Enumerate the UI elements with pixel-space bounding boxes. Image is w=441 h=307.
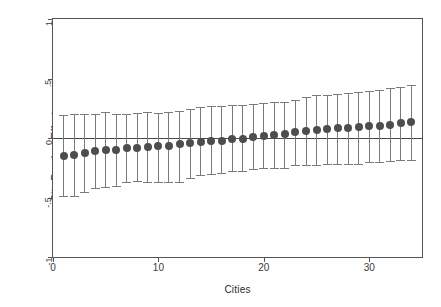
error-bar <box>207 106 216 175</box>
error-bar-cap-upper <box>291 100 300 101</box>
error-bar <box>312 95 321 165</box>
data-point-marker <box>123 144 131 152</box>
error-bar <box>375 90 384 161</box>
error-bar <box>186 109 195 178</box>
error-bar-cap-upper <box>133 113 142 114</box>
plot-area: 1.50-.5-10102030 <box>53 19 422 257</box>
error-bar <box>270 102 279 168</box>
error-bar-cap-upper <box>259 103 268 104</box>
data-point-marker <box>365 122 373 130</box>
data-point-marker <box>186 139 194 147</box>
data-point-marker <box>91 147 99 155</box>
error-bar-cap-lower <box>175 182 184 183</box>
data-point-marker <box>355 123 363 131</box>
data-point-marker <box>313 126 321 134</box>
error-bar-cap-upper <box>312 95 321 96</box>
x-axis-tick-label: 0 <box>50 263 56 273</box>
error-bar-cap-lower <box>396 160 405 161</box>
error-bar <box>70 114 79 197</box>
error-bar <box>164 112 173 182</box>
error-bar-cap-upper <box>91 114 100 115</box>
data-point-marker <box>60 152 68 160</box>
error-bar-cap-lower <box>164 182 173 183</box>
error-bar-cap-upper <box>154 113 163 114</box>
error-bar-cap-lower <box>228 171 237 172</box>
error-bar <box>323 95 332 165</box>
error-bar-cap-upper <box>186 109 195 110</box>
data-point-marker <box>397 119 405 127</box>
error-bar-cap-upper <box>396 87 405 88</box>
error-bar <box>354 92 363 164</box>
error-bar-cap-lower <box>312 165 321 166</box>
data-point-marker <box>376 122 384 130</box>
error-bar-cap-upper <box>59 115 68 116</box>
data-point-marker <box>323 125 331 133</box>
error-bar-cap-lower <box>133 181 142 182</box>
error-bar-cap-upper <box>143 112 152 113</box>
error-bar <box>333 94 342 164</box>
error-bar <box>396 87 405 161</box>
error-bar-cap-lower <box>80 192 89 193</box>
data-point-marker <box>407 118 415 126</box>
error-bar-cap-lower <box>386 161 395 162</box>
error-bar <box>101 112 110 187</box>
error-bar-cap-upper <box>207 106 216 107</box>
error-bar-cap-upper <box>323 95 332 96</box>
y-axis-tick-label: 1 <box>45 21 54 26</box>
error-bar <box>217 106 226 173</box>
error-bar-cap-upper <box>175 111 184 112</box>
error-bar-cap-lower <box>238 171 247 172</box>
y-axis-tick-mark <box>48 19 53 20</box>
error-bar <box>259 103 268 168</box>
error-bar-cap-lower <box>375 162 384 163</box>
data-point-marker <box>218 137 226 145</box>
error-bar-cap-lower <box>259 168 268 169</box>
error-bar-cap-lower <box>154 182 163 183</box>
error-bar-cap-lower <box>112 186 121 187</box>
error-bar-cap-lower <box>333 164 342 165</box>
data-point-marker <box>270 131 278 139</box>
error-bar-cap-upper <box>164 112 173 113</box>
error-bar <box>238 105 247 170</box>
data-point-marker <box>228 135 236 143</box>
error-bar-cap-lower <box>407 160 416 161</box>
error-bar-cap-lower <box>122 182 131 183</box>
error-bar-cap-lower <box>196 175 205 176</box>
error-bar-cap-lower <box>344 164 353 165</box>
error-bar-cap-upper <box>365 91 374 92</box>
error-bar-cap-lower <box>143 182 152 183</box>
error-bar-cap-lower <box>70 196 79 197</box>
error-bar <box>302 97 311 166</box>
x-axis-tick-label: 30 <box>364 263 375 273</box>
error-bar-cap-upper <box>386 88 395 89</box>
error-bar <box>291 100 300 165</box>
error-bar <box>365 91 374 162</box>
data-point-marker <box>386 121 394 129</box>
error-bar <box>407 85 416 161</box>
error-bar <box>112 114 121 186</box>
data-point-marker <box>239 135 247 143</box>
error-bar <box>80 114 89 192</box>
error-bar-cap-upper <box>238 105 247 106</box>
error-bar-cap-lower <box>59 196 68 197</box>
error-bar-cap-upper <box>280 102 289 103</box>
y-axis-tick-label: -.5 <box>45 197 54 208</box>
error-bar-cap-lower <box>91 188 100 189</box>
y-axis-tick-label: 0 <box>45 140 54 145</box>
data-point-marker <box>260 132 268 140</box>
data-point-marker <box>165 142 173 150</box>
error-bar <box>386 88 395 161</box>
error-bar-cap-lower <box>354 164 363 165</box>
error-bar-cap-upper <box>344 93 353 94</box>
error-bar-cap-upper <box>333 94 342 95</box>
error-bar-cap-upper <box>270 102 279 103</box>
error-bar-cap-lower <box>207 174 216 175</box>
error-bar-cap-upper <box>80 114 89 115</box>
error-bar-cap-upper <box>249 104 258 105</box>
error-bar <box>249 104 258 169</box>
y-axis-tick-mark <box>48 138 53 139</box>
error-bar-cap-upper <box>112 114 121 115</box>
data-point-marker <box>249 133 257 141</box>
data-point-marker <box>176 140 184 148</box>
data-point-marker <box>81 149 89 157</box>
